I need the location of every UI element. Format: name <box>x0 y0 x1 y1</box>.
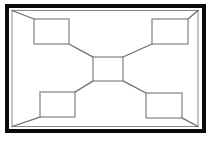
diagram-svg <box>0 0 216 142</box>
diagram-canvas <box>0 0 216 142</box>
node-top-right-shape[interactable] <box>152 19 188 44</box>
node-bottom-right-shape[interactable] <box>146 93 182 118</box>
node-center[interactable] <box>93 57 123 81</box>
node-bottom-right[interactable] <box>146 93 182 118</box>
node-top-right[interactable] <box>152 19 188 44</box>
node-top-left-shape[interactable] <box>34 19 69 44</box>
node-center-shape[interactable] <box>93 57 123 81</box>
node-bottom-left-shape[interactable] <box>40 92 75 117</box>
node-top-left[interactable] <box>34 19 69 44</box>
node-bottom-left[interactable] <box>40 92 75 117</box>
